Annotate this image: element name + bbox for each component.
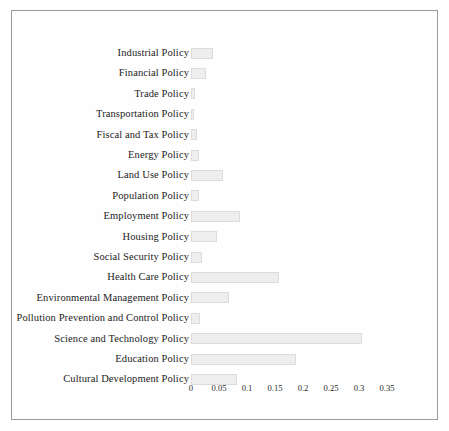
bar — [191, 292, 229, 303]
category-label: Energy Policy — [0, 149, 189, 161]
bar-row: Social Security Policy — [0, 248, 449, 266]
bar-row: Environmental Management Policy — [0, 289, 449, 307]
category-label: Education Policy — [0, 353, 189, 365]
category-label: Science and Technology Policy — [0, 333, 189, 345]
x-tick-label: 0.15 — [267, 383, 282, 393]
category-label: Health Care Policy — [0, 271, 189, 283]
bar-row: Science and Technology Policy — [0, 330, 449, 348]
category-label: Land Use Policy — [0, 169, 189, 181]
bar — [191, 211, 240, 222]
x-tick-label: 0.25 — [323, 383, 338, 393]
bar — [191, 150, 199, 161]
bar — [191, 129, 197, 140]
category-label: Financial Policy — [0, 67, 189, 79]
bar-row: Land Use Policy — [0, 166, 449, 184]
category-label: Pollution Prevention and Control Policy — [0, 312, 189, 324]
bar — [191, 48, 213, 59]
category-label: Social Security Policy — [0, 251, 189, 263]
bar-row: Trade Policy — [0, 85, 449, 103]
category-label: Industrial Policy — [0, 47, 189, 59]
category-label: Fiscal and Tax Policy — [0, 129, 189, 141]
bar-row: Employment Policy — [0, 207, 449, 225]
x-axis-tick-labels: 00.050.10.150.20.250.30.35 — [0, 383, 449, 397]
bar-row: Industrial Policy — [0, 44, 449, 62]
bar — [191, 313, 200, 324]
x-tick-label: 0.3 — [354, 383, 365, 393]
x-tick-label: 0 — [189, 383, 193, 393]
bar-row: Pollution Prevention and Control Policy — [0, 309, 449, 327]
x-tick-label: 0.05 — [211, 383, 226, 393]
bar-row: Energy Policy — [0, 146, 449, 164]
x-tick-label: 0.1 — [242, 383, 253, 393]
bar — [191, 68, 206, 79]
bar — [191, 170, 223, 181]
category-label: Environmental Management Policy — [0, 292, 189, 304]
plot-area: Industrial PolicyFinancial PolicyTrade P… — [0, 0, 449, 431]
bar — [191, 252, 202, 263]
x-tick-label: 0.2 — [298, 383, 309, 393]
category-label: Housing Policy — [0, 231, 189, 243]
bar-row: Education Policy — [0, 350, 449, 368]
bar-row: Population Policy — [0, 187, 449, 205]
bar-row: Fiscal and Tax Policy — [0, 126, 449, 144]
bar — [191, 88, 195, 99]
bar-row: Financial Policy — [0, 64, 449, 82]
bar-row: Transportation Policy — [0, 105, 449, 123]
bar — [191, 272, 279, 283]
bar — [191, 354, 296, 365]
category-label: Trade Policy — [0, 88, 189, 100]
bar-chart-figure: Industrial PolicyFinancial PolicyTrade P… — [0, 0, 449, 431]
x-tick-label: 0.35 — [379, 383, 394, 393]
category-label: Population Policy — [0, 190, 189, 202]
bar-row: Housing Policy — [0, 228, 449, 246]
bar — [191, 109, 194, 120]
bar-row: Health Care Policy — [0, 268, 449, 286]
category-label: Transportation Policy — [0, 108, 189, 120]
category-label: Employment Policy — [0, 210, 189, 222]
bar — [191, 231, 217, 242]
bar — [191, 333, 362, 344]
bar — [191, 190, 199, 201]
